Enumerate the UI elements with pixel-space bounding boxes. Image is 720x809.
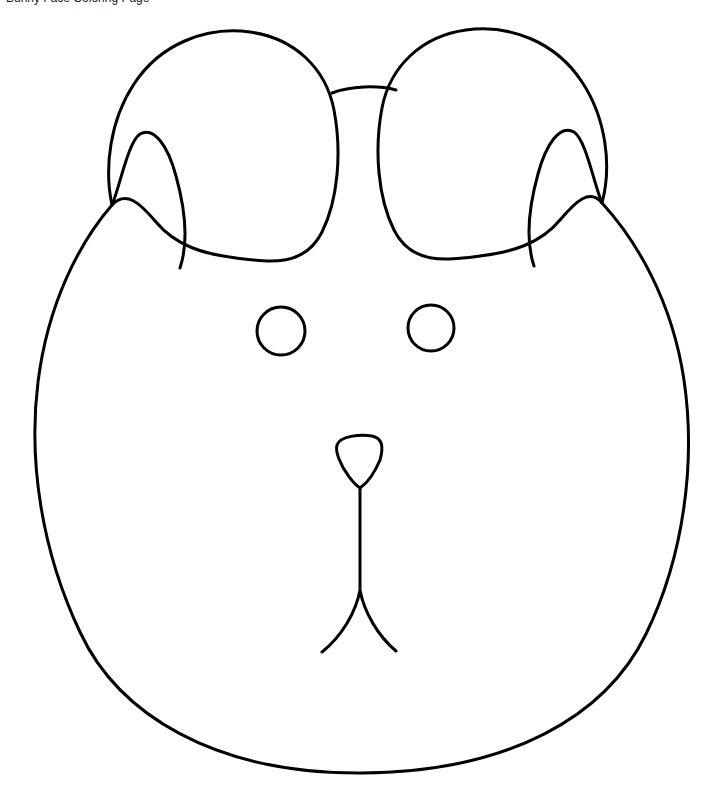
bunny-left-eye bbox=[257, 307, 305, 355]
bunny-face-drawing bbox=[0, 0, 720, 809]
coloring-page: Bunny Face Coloring Page bbox=[0, 0, 720, 809]
bunny-right-eye bbox=[408, 305, 454, 351]
